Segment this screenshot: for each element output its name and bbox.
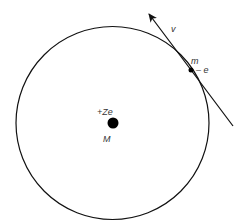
nucleus-mass-label: M xyxy=(103,134,111,144)
orbit-diagram: v m – e +Ze M xyxy=(0,0,247,222)
electron-dot xyxy=(189,68,194,73)
nucleus-charge-label: +Ze xyxy=(97,107,113,117)
electron-charge-label: – e xyxy=(195,65,209,75)
velocity-label: v xyxy=(171,24,176,34)
diagram-canvas: v m – e +Ze M xyxy=(0,0,247,222)
nucleus-dot xyxy=(108,118,119,129)
